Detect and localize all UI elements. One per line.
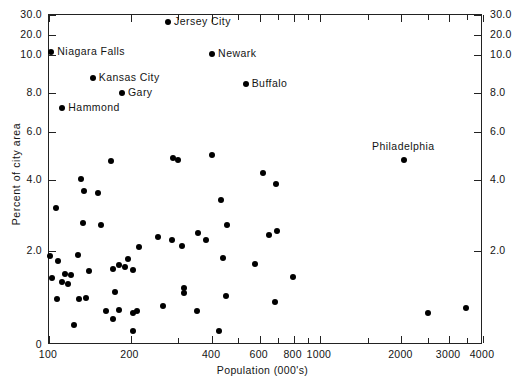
data-point: [425, 310, 431, 316]
data-point: [116, 262, 122, 268]
y-tick-label: 0: [2, 338, 42, 350]
x-tick: [368, 338, 369, 343]
x-tick-label: 800: [283, 348, 301, 360]
labeled-data-point: [165, 19, 171, 25]
x-tick-top: [131, 15, 132, 22]
y-tick: [49, 251, 56, 252]
data-point: [223, 293, 229, 299]
x-tick-label: 200: [120, 348, 138, 360]
data-point: [98, 222, 104, 228]
y-tick: [49, 15, 56, 16]
data-point: [218, 197, 224, 203]
data-point: [49, 275, 55, 281]
y-tick: [49, 35, 56, 36]
data-point: [75, 252, 81, 258]
data-point: [194, 308, 200, 314]
data-point: [68, 272, 74, 278]
data-point: [224, 222, 230, 228]
plot-area: [48, 14, 482, 344]
x-tick: [467, 338, 468, 343]
x-tick: [278, 338, 279, 343]
y-tick-right: [474, 93, 481, 94]
x-tick-top: [308, 15, 309, 20]
data-point: [65, 281, 71, 287]
data-point: [47, 253, 53, 259]
x-axis-title: Population (000's): [0, 364, 525, 376]
y-tick-label-right: 20.0: [490, 28, 512, 40]
point-annotation: Jersey City: [174, 15, 231, 27]
x-tick: [212, 336, 213, 343]
x-tick-top: [49, 15, 50, 22]
y-tick-label-right: 6.0: [490, 125, 506, 137]
x-tick-label: 1000: [307, 348, 332, 360]
point-annotation: Buffalo: [252, 77, 288, 89]
data-point: [116, 307, 122, 313]
data-point: [220, 255, 226, 261]
y-tick-label-right: 8.0: [490, 86, 506, 98]
x-tick-label: 2000: [388, 348, 413, 360]
y-tick-label-right: 2.0: [490, 244, 506, 256]
labeled-data-point: [243, 81, 249, 87]
y-tick-label-right: 4.0: [490, 173, 506, 185]
point-annotation: Philadelphia: [372, 140, 435, 152]
x-tick-top: [238, 15, 239, 20]
data-point: [252, 261, 258, 267]
x-tick-top: [467, 15, 468, 20]
data-point: [112, 289, 118, 295]
x-tick: [308, 338, 309, 343]
data-point: [103, 308, 109, 314]
y-tick-right: [474, 251, 481, 252]
data-point: [169, 237, 175, 243]
data-point: [160, 303, 166, 309]
y-tick: [49, 180, 56, 181]
data-point: [181, 290, 187, 296]
x-tick-label: 400: [202, 348, 220, 360]
data-point: [203, 237, 209, 243]
y-tick-label: 20.0: [2, 28, 42, 40]
data-point: [110, 316, 116, 322]
x-tick-top: [260, 15, 261, 22]
data-point: [130, 310, 136, 316]
data-point: [78, 176, 84, 182]
y-tick-label: 4.0: [2, 173, 42, 185]
y-tick-right: [474, 15, 481, 16]
point-annotation: Kansas City: [99, 71, 160, 83]
data-point: [55, 258, 61, 264]
data-point: [83, 295, 89, 301]
x-tick: [428, 338, 429, 343]
data-point: [86, 268, 92, 274]
x-tick-label: 3000: [436, 348, 461, 360]
data-point: [155, 234, 161, 240]
point-annotation: Hammond: [68, 101, 120, 113]
data-point: [179, 243, 185, 249]
data-point: [266, 232, 272, 238]
x-tick-label: 4000: [470, 348, 495, 360]
labeled-data-point: [59, 105, 65, 111]
y-tick-right: [474, 180, 481, 181]
data-point: [81, 188, 87, 194]
x-tick-top: [401, 15, 402, 22]
y-tick-right: [474, 55, 481, 56]
data-point: [110, 266, 116, 272]
x-tick: [320, 336, 321, 343]
y-tick-label: 30.0: [2, 8, 42, 20]
data-point: [272, 299, 278, 305]
y-tick-right: [474, 132, 481, 133]
data-point: [273, 181, 279, 187]
y-tick-label-right: 10.0: [490, 48, 512, 60]
data-point: [216, 328, 222, 334]
data-point: [122, 264, 128, 270]
x-tick-top: [449, 15, 450, 22]
data-point: [71, 322, 77, 328]
x-tick: [131, 336, 132, 343]
x-tick-top: [483, 15, 484, 22]
data-point: [260, 170, 266, 176]
y-tick-right: [474, 35, 481, 36]
data-point: [130, 267, 136, 273]
x-tick: [238, 338, 239, 343]
data-point: [108, 158, 114, 164]
x-tick: [178, 338, 179, 343]
data-point: [274, 228, 280, 234]
x-tick: [401, 336, 402, 343]
labeled-data-point: [90, 75, 96, 81]
